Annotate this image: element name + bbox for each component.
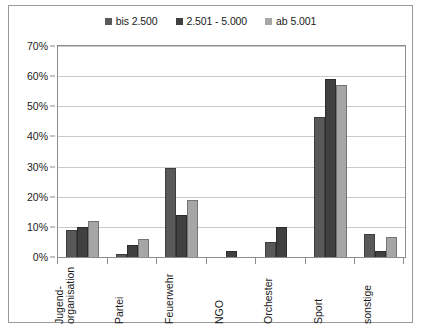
bar — [226, 251, 237, 257]
y-tick-mark — [50, 196, 55, 197]
legend-label-series-2: ab 5.001 — [276, 15, 316, 27]
bar-group — [306, 46, 356, 257]
x-tick-label: Partei — [114, 254, 125, 324]
bar — [314, 117, 325, 257]
y-tick-mark — [50, 136, 55, 137]
legend-swatch-series-2 — [265, 18, 272, 25]
bar-group — [256, 46, 306, 257]
legend-item-2501-5000: 2.501 - 5.000 — [176, 15, 248, 27]
y-tick-mark — [50, 76, 55, 77]
chart-legend: bis 2.500 2.501 - 5.000 ab 5.001 — [9, 15, 412, 27]
y-tick-mark — [50, 46, 55, 47]
y-tick-label: 0% — [33, 251, 48, 263]
bar-group — [108, 46, 158, 257]
legend-swatch-series-1 — [176, 18, 183, 25]
bar — [276, 227, 287, 257]
y-tick-mark — [50, 166, 55, 167]
bar — [176, 215, 187, 257]
x-tick-label: sonstige — [362, 254, 373, 324]
legend-item-ab-5001: ab 5.001 — [265, 15, 316, 27]
y-tick-label: 40% — [27, 130, 48, 142]
x-tick-label: Sport — [313, 254, 324, 324]
bar — [165, 168, 176, 257]
bar — [138, 239, 149, 257]
legend-label-series-1: 2.501 - 5.000 — [187, 15, 248, 27]
y-tick-label: 70% — [27, 40, 48, 52]
bar — [325, 79, 336, 257]
y-tick-label: 10% — [27, 221, 48, 233]
bar — [386, 237, 397, 257]
x-tick-label: NGO — [214, 254, 225, 324]
y-tick-label: 30% — [27, 161, 48, 173]
bar-group — [355, 46, 405, 257]
bar — [336, 85, 347, 257]
bar — [66, 230, 77, 257]
y-tick-label: 60% — [27, 70, 48, 82]
legend-swatch-series-0 — [105, 18, 112, 25]
bar — [375, 251, 386, 257]
x-tick-label: Orchester — [263, 254, 274, 324]
chart-container: bis 2.500 2.501 - 5.000 ab 5.001 0%10%20… — [8, 5, 413, 323]
plot-area — [57, 45, 406, 258]
bar-group — [58, 46, 108, 257]
bar — [77, 227, 88, 257]
bar-group — [207, 46, 257, 257]
bar-group — [157, 46, 207, 257]
y-tick-mark — [50, 106, 55, 107]
y-tick-label: 20% — [27, 191, 48, 203]
y-tick-mark — [50, 226, 55, 227]
bar — [88, 221, 99, 257]
y-axis: 0%10%20%30%40%50%60%70% — [9, 45, 55, 258]
bar — [127, 245, 138, 257]
x-tick-label: Jugend-organisation — [54, 254, 76, 324]
x-axis-labels: Jugend-organisationParteiFeuerwehrNGOOrc… — [57, 264, 406, 326]
y-tick-label: 50% — [27, 100, 48, 112]
x-tick-label: Feuerwehr — [164, 254, 175, 324]
bar — [187, 200, 198, 257]
legend-label-series-0: bis 2.500 — [116, 15, 158, 27]
legend-item-bis-2500: bis 2.500 — [105, 15, 158, 27]
